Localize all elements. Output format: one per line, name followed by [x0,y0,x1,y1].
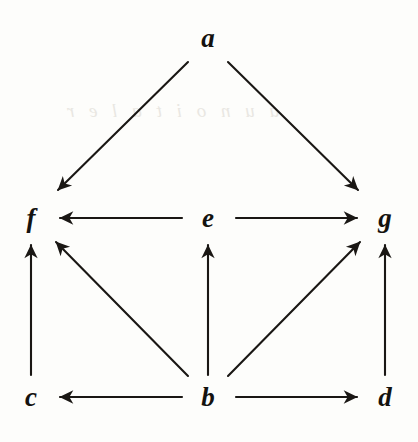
node-e: e [202,205,214,232]
edge-b-to-f [56,242,188,376]
graph-diagram: a u n o i t a l e r a f e g c b d [0,0,418,442]
node-a: a [201,25,215,52]
node-g: g [378,205,392,232]
node-b: b [201,384,215,411]
edge-a-to-f [58,62,188,190]
node-c: c [25,384,37,411]
node-f: f [27,205,36,232]
node-d: d [378,384,392,411]
edge-a-to-g [228,62,358,190]
edge-b-to-g [228,242,360,376]
